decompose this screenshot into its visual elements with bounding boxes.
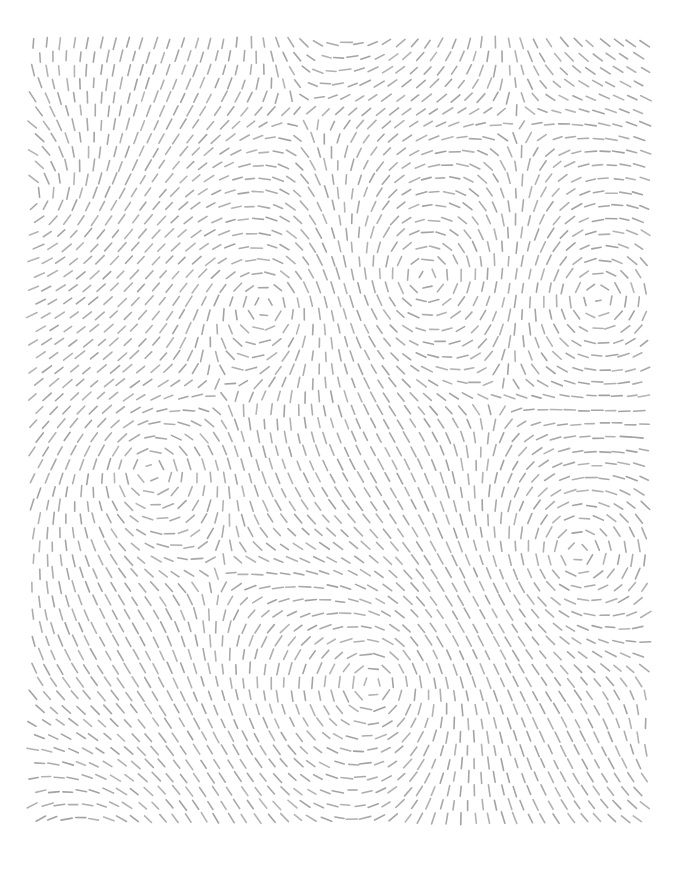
flow-dash	[49, 792, 60, 793]
flow-dash	[101, 121, 102, 131]
flow-dash	[87, 502, 88, 511]
flow-dash	[600, 151, 610, 152]
flow-dash	[39, 541, 40, 552]
flow-dash	[592, 355, 602, 356]
flow-dash	[359, 227, 360, 237]
flow-dash	[299, 677, 300, 688]
flow-dash	[101, 92, 102, 103]
flow-dash	[318, 391, 319, 402]
flow-dash	[598, 178, 608, 179]
flow-dash	[253, 218, 264, 219]
flow-dash	[360, 654, 372, 655]
flow-dash	[638, 297, 639, 307]
flow-dash	[611, 396, 622, 397]
flow-dash	[580, 436, 590, 437]
flow-dash	[408, 269, 409, 280]
flow-dash	[508, 256, 509, 265]
artwork-canvas	[0, 0, 679, 878]
flow-dash	[482, 473, 483, 483]
flow-dash	[429, 192, 439, 193]
flow-dash	[592, 382, 603, 383]
flow-dash	[607, 165, 616, 166]
flow-dash	[522, 310, 523, 320]
flow-dash	[494, 254, 495, 266]
flow-dash	[164, 424, 175, 425]
flow-dash	[299, 587, 311, 588]
flow-dash	[277, 419, 278, 430]
flow-dash	[369, 668, 379, 669]
flow-dash	[39, 188, 40, 198]
flow-dash	[515, 541, 516, 550]
flow-dash	[440, 689, 441, 701]
flow-dash	[545, 124, 555, 125]
flow-dash	[494, 527, 495, 537]
flow-dash	[488, 433, 489, 444]
flow-dash	[47, 528, 48, 539]
flow-dash	[250, 662, 251, 673]
flow-dash	[33, 39, 34, 48]
flow-dash	[183, 410, 195, 411]
flow-dash	[593, 273, 603, 274]
flow-dash	[369, 694, 378, 695]
flow-dash	[614, 179, 623, 180]
flow-dash	[81, 486, 82, 497]
flow-dash	[481, 773, 482, 784]
flow-dash	[593, 328, 603, 329]
flow-dash	[102, 474, 103, 483]
flow-dash	[579, 518, 589, 519]
flow-dash	[222, 664, 223, 674]
flow-dash	[585, 151, 597, 152]
flow-dash	[488, 514, 489, 525]
flow-dash	[475, 813, 476, 823]
flow-dash	[312, 351, 313, 360]
flow-dash	[254, 166, 264, 167]
flow-dash	[245, 178, 254, 179]
flow-dash	[392, 678, 393, 688]
flow-dash	[535, 309, 536, 321]
flow-dash	[501, 513, 502, 524]
flow-dash	[59, 66, 60, 75]
flow-dash	[474, 731, 475, 742]
flow-dash	[359, 257, 360, 266]
flow-dash	[252, 273, 262, 274]
flow-dash	[460, 786, 461, 796]
flow-dash	[447, 269, 448, 280]
flow-dash	[632, 437, 644, 438]
flow-dash	[311, 404, 312, 415]
flow-dash	[290, 418, 291, 430]
flow-dash	[510, 66, 511, 75]
flow-dash	[605, 627, 614, 628]
flow-dash	[215, 651, 216, 661]
flow-dash	[264, 420, 265, 429]
flow-dash	[612, 205, 623, 206]
flow-dash	[585, 452, 597, 453]
flow-dash	[284, 405, 285, 416]
flow-dash	[260, 315, 268, 316]
flow-dash	[325, 377, 326, 388]
flow-dash	[225, 383, 236, 384]
flow-dash	[209, 609, 210, 620]
flow-dash	[508, 364, 509, 374]
flow-dash	[634, 411, 645, 412]
flow-dash	[502, 268, 503, 278]
flow-dash	[604, 383, 616, 384]
flow-dash	[462, 704, 463, 715]
flow-dash	[66, 51, 67, 61]
flow-dash	[86, 65, 87, 76]
flow-dash	[620, 436, 631, 437]
flow-dash	[524, 409, 534, 410]
flow-dash	[481, 744, 482, 755]
flow-dash	[33, 554, 34, 563]
flow-dash	[181, 473, 182, 482]
flow-dash	[53, 512, 54, 524]
flow-dash	[54, 777, 64, 778]
flow-dash	[226, 573, 236, 574]
flow-dash	[336, 601, 345, 602]
flow-dash	[87, 119, 88, 131]
flow-dash	[326, 71, 336, 72]
flow-dash	[223, 309, 224, 321]
flow-dash	[349, 764, 359, 765]
flow-dash	[530, 297, 531, 308]
flow-dash	[229, 487, 230, 498]
flow-dash	[367, 242, 368, 252]
